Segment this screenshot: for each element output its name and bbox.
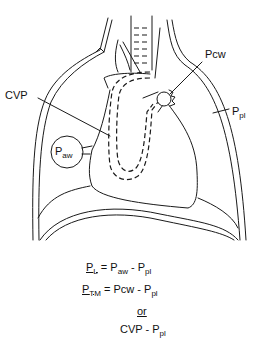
ppl-leader <box>213 109 229 113</box>
chest-wall-left-inner <box>39 20 112 240</box>
equation-cvp: CVP - Ppl <box>120 324 166 335</box>
catheter-outer <box>109 72 158 180</box>
equation-or: or <box>137 306 147 317</box>
trachea-rings <box>134 28 149 63</box>
label-ppl: Ppl <box>232 106 246 117</box>
label-paw: Paw <box>55 146 73 157</box>
pcw-leader <box>170 62 202 94</box>
wedge-balloon <box>157 92 171 106</box>
diaphragm-outer <box>40 209 238 240</box>
equation-pl: PL = Paw - Ppl <box>86 262 151 273</box>
label-cvp: CVP <box>5 90 28 101</box>
thorax-diagram: CVP Pcw Ppl Paw PL = Paw - Ppl PTM = Pcw… <box>0 0 266 345</box>
diaphragm-inner <box>46 215 234 240</box>
label-pcw: Pcw <box>205 49 226 60</box>
heart-right-border <box>104 73 150 88</box>
catheter-inner <box>117 78 153 171</box>
equation-ptm: PTM = Pcw - Ppl <box>82 284 158 295</box>
heart-outline <box>89 90 197 208</box>
cvp-leader <box>38 98 110 136</box>
